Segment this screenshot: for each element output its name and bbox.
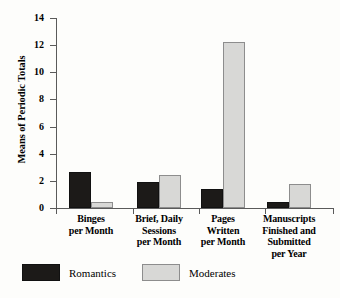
legend: RomanticsModerates <box>22 264 236 281</box>
y-tick-mark <box>50 127 56 128</box>
y-tick-mark <box>50 72 56 73</box>
bar-moderates <box>159 175 181 208</box>
legend-label: Moderates <box>189 267 235 279</box>
bar-moderates <box>223 42 245 208</box>
y-tick-label: 6 <box>4 122 44 132</box>
category-label-line: Submitted <box>246 236 332 248</box>
y-tick-mark <box>50 154 56 155</box>
legend-item: Moderates <box>142 264 235 281</box>
y-tick-label: 12 <box>4 40 44 50</box>
category-label-line: per Year <box>246 248 332 260</box>
y-tick-label: 0 <box>4 203 44 213</box>
bar-romantics <box>201 189 223 208</box>
y-tick-label: 4 <box>4 149 44 159</box>
bar-moderates <box>289 184 311 208</box>
bar-romantics <box>69 172 91 208</box>
y-tick-label: 8 <box>4 94 44 104</box>
category-label: ManuscriptsFinished andSubmittedper Year <box>246 213 332 259</box>
legend-swatch <box>142 264 180 281</box>
bar-moderates <box>91 202 113 208</box>
y-axis-line <box>56 18 57 209</box>
bar-group <box>128 18 190 208</box>
bar-romantics <box>137 182 159 208</box>
y-tick-mark <box>50 99 56 100</box>
category-label-line: Manuscripts <box>246 213 332 225</box>
category-label-line: Finished and <box>246 225 332 237</box>
bar-group <box>60 18 122 208</box>
legend-label: Romantics <box>69 267 116 279</box>
y-tick-label: 14 <box>4 13 44 23</box>
legend-item: Romantics <box>22 264 116 281</box>
y-tick-label: 10 <box>4 67 44 77</box>
x-tick-mark <box>333 208 334 214</box>
y-tick-mark <box>50 181 56 182</box>
y-tick-label: 2 <box>4 176 44 186</box>
bar-romantics <box>267 202 289 208</box>
y-tick-mark <box>50 18 56 19</box>
bar-group <box>258 18 320 208</box>
legend-swatch <box>22 264 60 281</box>
x-axis-line <box>56 208 334 209</box>
bar-group <box>192 18 254 208</box>
chart-figure: Means of Periodic Totals 02468101214 Bin… <box>0 0 340 298</box>
y-axis-label: Means of Periodic Totals <box>16 35 27 185</box>
y-tick-mark <box>50 45 56 46</box>
